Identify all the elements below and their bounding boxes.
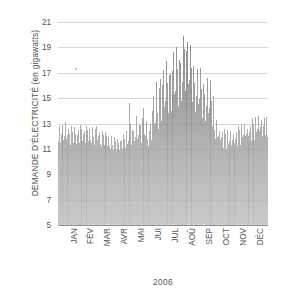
y-tick-label: 19 [42,43,51,52]
x-tick-label: JUI [154,228,163,240]
x-tick-label: AOÛ [188,228,197,246]
bar-series [58,22,268,225]
y-tick-label: 15 [42,94,51,103]
chart-figure: DEMANDE D'ÉLECTRICITÉ (en gigawatts) 579… [0,0,289,298]
y-tick-label: 11 [43,144,52,153]
x-tick-label: MAI [137,228,146,243]
x-axis-line [58,225,268,226]
bar [267,137,268,225]
x-tick-label: OCT [222,228,231,245]
x-tick-label: NOV [239,228,248,246]
x-tick-label: SEP [205,228,214,244]
y-tick-label: 9 [46,170,51,179]
x-tick-label: MAR [103,228,112,246]
speck-artifact [75,68,77,70]
y-axis-tick-labels: 579111315171921 [0,0,58,298]
plot-area [58,22,268,225]
y-tick-label: 13 [42,119,51,128]
x-tick-label: JAN [70,228,79,243]
x-tick-label: DÉC [256,228,265,245]
x-tick-label: AVR [120,228,129,244]
x-tick-label: JUL [171,228,180,243]
y-tick-label: 5 [46,221,51,230]
x-axis-tick-labels: JANFÉVMARAVRMAIJUIJULAOÛSEPOCTNOVDÉC [58,228,268,274]
x-tick-label: FÉV [86,228,95,244]
y-tick-label: 17 [42,68,51,77]
y-tick-label: 21 [42,18,51,27]
x-axis-label: 2006 [58,277,268,287]
y-tick-label: 7 [46,195,51,204]
